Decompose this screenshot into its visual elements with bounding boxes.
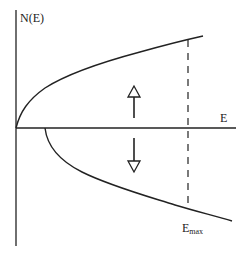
emax-label: Emax <box>182 221 203 236</box>
upper-curve <box>16 36 203 128</box>
spin-up-arrow-icon <box>128 86 140 118</box>
emax-label-main: E <box>182 221 189 235</box>
lower-curve <box>45 128 232 221</box>
dos-diagram: N(E) E Emax <box>0 0 245 257</box>
spin-down-arrow-icon <box>128 138 140 172</box>
x-axis-label: E <box>220 111 227 125</box>
emax-label-sub: max <box>189 227 203 236</box>
y-axis-label: N(E) <box>20 11 44 25</box>
